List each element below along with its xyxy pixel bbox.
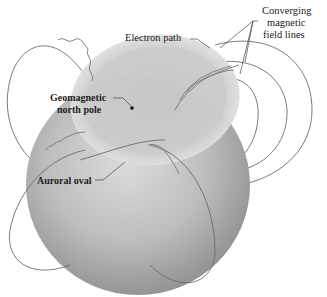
label-converging-3: field lines <box>263 29 305 40</box>
label-electron-path: Electron path <box>125 32 182 43</box>
geomagnetic-pole-marker <box>130 106 134 110</box>
label-auroral-oval: Auroral oval <box>37 175 92 186</box>
label-converging-2: magnetic <box>267 17 306 28</box>
label-pole-2: north pole <box>57 104 102 115</box>
label-pole-1: Geomagnetic <box>50 92 107 103</box>
magnetosphere-diagram: Electron path Converging magnetic field … <box>0 0 327 297</box>
label-converging-1: Converging <box>262 5 312 16</box>
